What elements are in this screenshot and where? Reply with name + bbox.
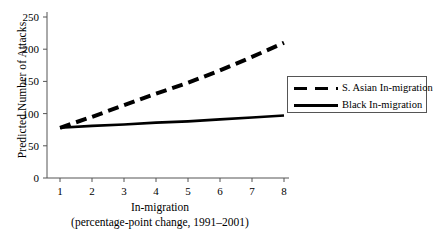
legend-swatch-solid: [294, 104, 338, 107]
legend-item-black: Black In-migration: [288, 96, 428, 114]
legend-label: Black In-migration: [342, 98, 422, 112]
legend-swatch-dashed: [294, 87, 338, 90]
chart-figure: Predicted Number of Attacks 050100150200…: [0, 0, 435, 236]
chart-legend: S. Asian In-migration Black In-migration: [287, 76, 427, 113]
x-axis-label: In-migration: [0, 201, 320, 213]
x-axis-sublabel: (percentage-point change, 1991–2001): [0, 216, 320, 228]
series-line: [60, 43, 284, 128]
legend-label: S. Asian In-migration: [342, 81, 433, 95]
legend-item-s-asian: S. Asian In-migration: [288, 79, 428, 97]
